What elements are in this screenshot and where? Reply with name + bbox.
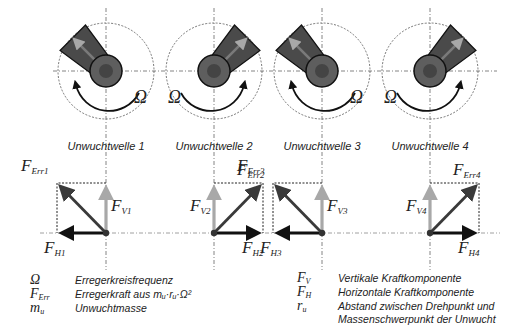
vertical-force-label: FV3 [326,196,348,216]
shaft-2: ΩUnwuchtwelle 2FErr2FV2FH2 [166,8,265,270]
force-diagram-4: FErr4FV4FH4 [405,160,481,258]
shaft-hub-center [99,64,113,78]
excitation-force-vector [277,187,322,233]
vertical-force-label: FV4 [405,196,427,216]
omega-symbol: Ω [168,87,181,107]
legend-text: Horizontale Kraftkomponente [338,286,474,298]
force-diagram-1: FErr1FV1FH1 [20,156,131,258]
legend-symbol: mu [30,300,44,316]
legend-item: ruAbstand zwischen Drehpunkt undMassensc… [297,298,497,325]
shaft-4: ΩUnwuchtwelle 4FErr4FV4FH4 [382,8,481,270]
vector-origin [103,230,109,236]
legend-text: Erregerkreisfrequenz [75,274,174,286]
legend-symbol: ru [297,298,306,314]
legend-left: ΩErregerkreisfrequenzFErrErregerkraft au… [29,272,192,316]
horizontal-force-label: FH3 [259,238,282,258]
shaft-hub-center [207,64,221,78]
shaft-1: ΩUnwuchtwelle 1FErr1FV1FH1 [20,8,154,270]
omega-symbol: Ω [350,87,363,107]
unbalance-shaft-diagram: ΩUnwuchtwelle 1FErr1FV1FH1ΩUnwuchtwelle … [0,0,531,336]
legend-right: FVVertikale KraftkomponenteFHHorizontale… [296,270,497,325]
vertical-force-label: FV2 [189,196,211,216]
excitation-force-label: FErr4 [452,160,481,180]
horizontal-force-label: FH1 [43,238,65,258]
rotation-cw-arrow [181,85,244,111]
shaft-hub-center [315,64,329,78]
vector-origin [319,230,325,236]
diagram-canvas: ΩUnwuchtwelle 1FErr1FV1FH1ΩUnwuchtwelle … [0,0,531,336]
legend-item: muUnwuchtmasse [30,300,147,316]
vector-origin [211,230,217,236]
rotation-ccw-arrow [76,85,139,111]
legend-text-cont: Massenschwerpunkt der Unwucht [338,313,497,325]
excitation-force-label: FErr1 [20,156,48,176]
force-diagram-3: FErr3FV3FH3 [236,156,348,258]
legend-item: ΩErregerkreisfrequenz [30,272,174,287]
vertical-force-label: FV1 [110,196,131,216]
vector-origin [427,230,433,236]
shaft-label: Unwuchtwelle 4 [391,140,468,152]
shaft-label: Unwuchtwelle 1 [67,140,144,152]
excitation-force-vector [61,187,106,233]
legend-text: Vertikale Kraftkomponente [338,272,462,284]
legend-item: FErrErregerkraft aus mᵤ·rᵤ·Ω² [29,286,192,302]
omega-symbol: Ω [134,87,147,107]
omega-symbol: Ω [384,87,397,107]
shaft-label: Unwuchtwelle 2 [175,140,252,152]
rotation-ccw-arrow [292,85,355,111]
legend-text: Unwuchtmasse [75,302,147,314]
legend-text: Erregerkraft aus mᵤ·rᵤ·Ω² [75,288,192,300]
shaft-label: Unwuchtwelle 3 [283,140,361,152]
excitation-force-vector [214,187,259,233]
excitation-force-vector [430,187,475,233]
legend-item: FVVertikale Kraftkomponente [296,270,462,286]
legend-item: FHHorizontale Kraftkomponente [296,284,474,300]
rotation-cw-arrow [397,85,460,111]
horizontal-force-label: FH4 [457,238,480,258]
shaft-hub-center [423,64,437,78]
excitation-force-label: FErr3 [236,156,265,176]
legend-text: Abstand zwischen Drehpunkt und [337,300,496,312]
legend-symbol: Ω [30,272,40,287]
